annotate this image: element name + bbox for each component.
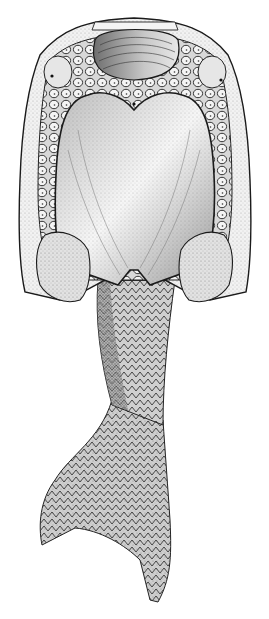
caudal-fin — [40, 400, 170, 602]
scaled-trunk — [97, 280, 175, 425]
fish-drawing — [0, 0, 269, 619]
right-orbit — [198, 56, 226, 88]
fossil-fish-illustration — [0, 0, 269, 619]
left-orbit — [44, 56, 72, 88]
